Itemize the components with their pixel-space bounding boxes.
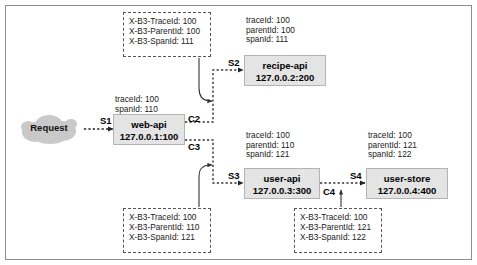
node-user-store-address: 127.0.0.4:400 — [367, 185, 447, 197]
node-user-api-name: user-api — [245, 173, 319, 185]
span-context-recipe-api: traceId: 100 parentId: 100 spanId: 111 — [246, 16, 295, 45]
span-tag-s3: S3 — [228, 170, 240, 181]
span-context-user-api: traceId: 100 parentId: 110 spanId: 121 — [246, 131, 294, 160]
headers-callout-c2: X-B3-TraceId: 100 X-B3-ParentId: 100 X-B… — [123, 12, 211, 57]
headers-callout-c4: X-B3-TraceId: 100 X-B3-ParentId: 121 X-B… — [294, 208, 382, 253]
request-label: Request — [19, 122, 79, 133]
span-tag-s1: S1 — [100, 115, 112, 126]
span-tag-s2: S2 — [228, 57, 240, 68]
node-web-api-name: web-api — [114, 119, 184, 131]
node-web-api[interactable]: web-api 127.0.0.1:100 — [113, 114, 185, 145]
node-user-api-address: 127.0.0.3:300 — [245, 185, 319, 197]
diagram-canvas: Request web-api 127.0.0.1:100 recipe-api… — [0, 0, 477, 265]
span-tag-s4: S4 — [350, 170, 362, 181]
node-web-api-address: 127.0.0.1:100 — [114, 131, 184, 143]
node-user-store-name: user-store — [367, 173, 447, 185]
node-recipe-api-name: recipe-api — [245, 60, 325, 72]
span-tag-c4: C4 — [323, 186, 335, 197]
span-tag-c3: C3 — [188, 141, 200, 152]
headers-callout-c3: X-B3-TraceId: 100 X-B3-ParentId: 110 X-B… — [123, 208, 211, 253]
span-context-user-store: traceId: 100 parentId: 121 spanId: 122 — [368, 131, 417, 160]
span-context-web-api: traceId: 100 spanId: 110 — [115, 95, 159, 114]
node-user-api[interactable]: user-api 127.0.0.3:300 — [244, 168, 320, 199]
node-user-store[interactable]: user-store 127.0.0.4:400 — [366, 168, 448, 199]
node-recipe-api-address: 127.0.0.2:200 — [245, 72, 325, 84]
node-recipe-api[interactable]: recipe-api 127.0.0.2:200 — [244, 55, 326, 86]
span-tag-c2: C2 — [188, 113, 200, 124]
